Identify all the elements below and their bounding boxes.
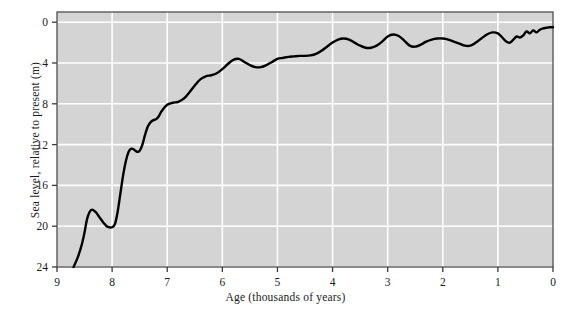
svg-text:8: 8 (109, 276, 115, 288)
y-axis-title: Sea level, relative to present (m) (29, 20, 41, 260)
sea-level-chart-figure: 04812162024 9876543210 Age (thousands of… (0, 0, 571, 314)
svg-text:1: 1 (495, 276, 501, 288)
y-axis-ticks (52, 22, 57, 267)
svg-text:4: 4 (330, 276, 336, 288)
chart-canvas: 04812162024 9876543210 (0, 0, 571, 314)
x-axis-title: Age (thousands of years) (0, 291, 571, 303)
svg-text:0: 0 (550, 276, 556, 288)
svg-text:24: 24 (37, 261, 49, 273)
plot-background (57, 12, 553, 267)
svg-text:4: 4 (42, 57, 48, 69)
svg-text:2: 2 (440, 276, 446, 288)
svg-text:8: 8 (42, 98, 48, 110)
svg-text:3: 3 (385, 276, 391, 288)
svg-text:9: 9 (54, 276, 60, 288)
x-axis-tick-labels: 9876543210 (54, 276, 556, 288)
svg-text:0: 0 (42, 16, 48, 28)
svg-text:6: 6 (219, 276, 225, 288)
svg-text:7: 7 (164, 276, 170, 288)
svg-text:5: 5 (275, 276, 281, 288)
